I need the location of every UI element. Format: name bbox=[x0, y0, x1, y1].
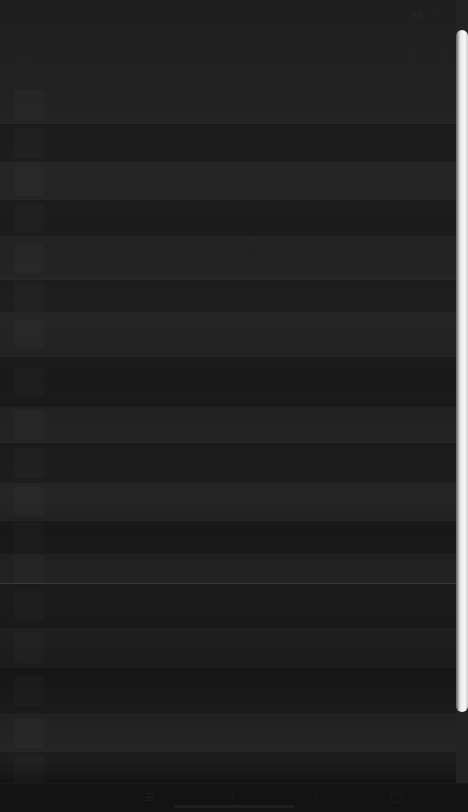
scrollbar-thumb[interactable] bbox=[456, 30, 468, 712]
list-item-text bbox=[55, 217, 431, 219]
list-item-thumbnail bbox=[14, 89, 44, 119]
list-item-text bbox=[55, 690, 431, 692]
list-item[interactable] bbox=[0, 483, 456, 521]
list-item[interactable] bbox=[0, 714, 456, 752]
list-item-thumbnail bbox=[14, 448, 44, 478]
list-item[interactable] bbox=[0, 280, 456, 312]
home-icon: ⌂ bbox=[66, 792, 73, 803]
list-item-thumbnail bbox=[14, 591, 44, 621]
list-item[interactable] bbox=[0, 200, 456, 236]
nav-item-0[interactable]: ⌂ bbox=[66, 792, 73, 804]
list-item-text bbox=[55, 424, 431, 426]
list-item-thumbnail bbox=[14, 633, 44, 663]
overflow-menu-icon[interactable]: ⋮ bbox=[434, 46, 454, 66]
list-item[interactable] bbox=[0, 407, 456, 443]
status-bar: ▮▮▯ ≋ ▭ bbox=[0, 0, 468, 28]
app-bar: ‹ ⌕ ⋮ bbox=[0, 28, 468, 84]
list-item-thumbnail bbox=[14, 166, 44, 196]
nav-item-3[interactable]: ◔ bbox=[311, 792, 318, 804]
list-item[interactable] bbox=[0, 521, 456, 554]
list-item-text bbox=[55, 257, 431, 259]
list-item-thumbnail bbox=[14, 203, 44, 233]
list-item-thumbnail bbox=[14, 410, 44, 440]
list-item-text bbox=[55, 769, 431, 771]
search-icon[interactable]: ⌕ bbox=[402, 46, 422, 66]
plus-icon: ＋ bbox=[227, 792, 238, 803]
list-item-thumbnail bbox=[14, 487, 44, 517]
list-item-text bbox=[55, 501, 431, 503]
list-item[interactable] bbox=[0, 668, 456, 714]
list-item-text bbox=[55, 536, 431, 538]
nav-item-2[interactable]: ＋ bbox=[227, 792, 238, 804]
nav-item-1[interactable]: ☰ bbox=[145, 792, 155, 804]
list-item[interactable] bbox=[0, 162, 456, 200]
list-item-text bbox=[55, 381, 431, 383]
list-item-text bbox=[55, 180, 431, 182]
list-item[interactable] bbox=[0, 236, 456, 280]
list-item-text bbox=[55, 647, 431, 649]
nav-item-4[interactable]: ◯ bbox=[390, 792, 402, 804]
screen-root: ▮▮▯ ≋ ▭ ‹ ⌕ ⋮ ⌂☰＋◔◯ bbox=[0, 0, 468, 812]
back-arrow-icon[interactable]: ‹ bbox=[14, 46, 34, 66]
list-item[interactable] bbox=[0, 628, 456, 668]
list-item-thumbnail bbox=[14, 281, 44, 311]
list-item-thumbnail bbox=[14, 128, 44, 158]
list-item-thumbnail bbox=[14, 522, 44, 552]
content-list[interactable] bbox=[0, 84, 456, 783]
list-item-thumbnail bbox=[14, 676, 44, 706]
list-item[interactable] bbox=[0, 443, 456, 483]
list-item[interactable] bbox=[0, 752, 456, 783]
list-item-text bbox=[55, 103, 431, 105]
home-indicator bbox=[174, 805, 294, 808]
profile-icon: ◯ bbox=[390, 792, 402, 803]
bell-icon: ◔ bbox=[311, 792, 318, 803]
battery-icon: ▭ bbox=[445, 10, 454, 19]
list-item-thumbnail bbox=[14, 755, 44, 784]
list-item[interactable] bbox=[0, 554, 456, 584]
list-item-thumbnail bbox=[14, 718, 44, 748]
status-bar-indicators: ▮▮▯ ≋ ▭ bbox=[412, 10, 454, 19]
list-item[interactable] bbox=[0, 584, 456, 628]
list-item-thumbnail bbox=[14, 243, 44, 273]
wifi-icon: ≋ bbox=[432, 10, 440, 19]
list-item-text bbox=[55, 568, 431, 570]
list-icon: ☰ bbox=[145, 792, 155, 803]
list-item-text bbox=[55, 295, 431, 297]
list-item-text bbox=[55, 732, 431, 734]
list-item-thumbnail bbox=[14, 367, 44, 397]
signal-icon: ▮▮▯ bbox=[412, 10, 427, 19]
list-item-thumbnail bbox=[14, 319, 44, 349]
list-item-text bbox=[55, 333, 431, 335]
list-item-thumbnail bbox=[14, 554, 44, 584]
list-item-text bbox=[55, 142, 431, 144]
list-item-text bbox=[55, 462, 431, 464]
list-item[interactable] bbox=[0, 84, 456, 124]
list-item-text bbox=[55, 605, 431, 607]
list-item[interactable] bbox=[0, 124, 456, 162]
list-item[interactable] bbox=[0, 357, 456, 407]
list-item[interactable] bbox=[0, 312, 456, 357]
